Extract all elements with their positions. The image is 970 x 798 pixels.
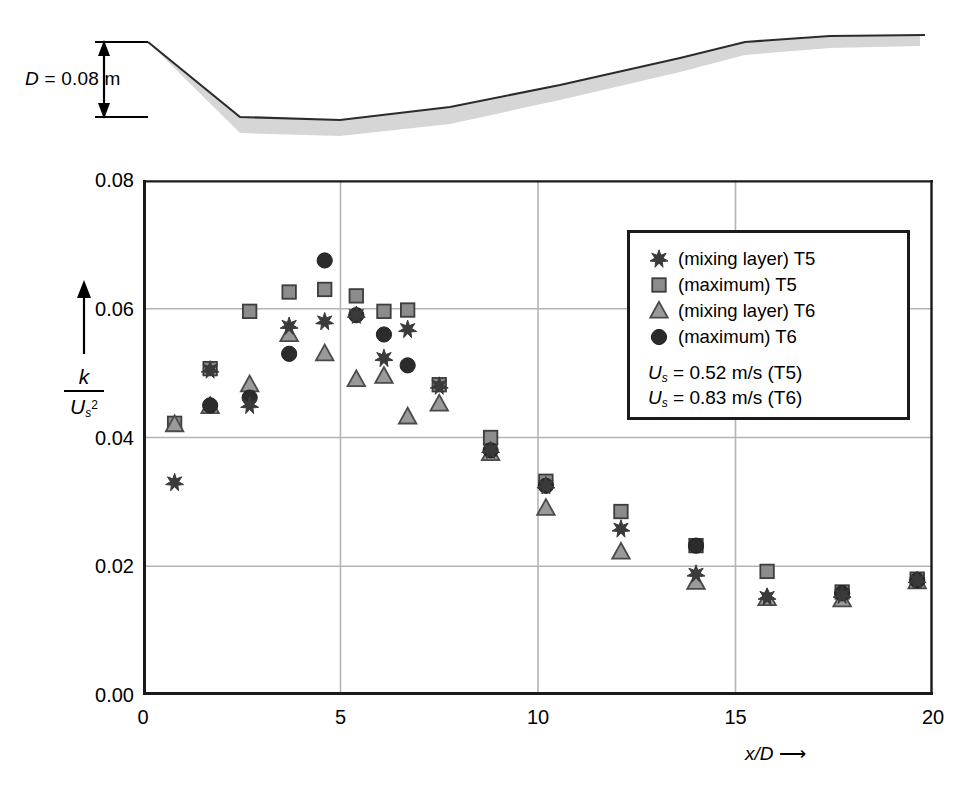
legend-circle-icon <box>651 329 666 344</box>
fraction-bar <box>64 390 104 392</box>
x-tick-label: 20 <box>922 706 944 729</box>
data-point-triangle <box>537 499 554 515</box>
data-point-circle <box>400 358 415 373</box>
data-point-triangle <box>241 376 258 392</box>
data-point-square <box>401 303 415 317</box>
legend-label: (maximum) T6 <box>678 326 797 348</box>
legend-velocity-note: Us = 0.83 m/s (T6) <box>648 387 907 412</box>
legend-notes: Us = 0.52 m/s (T5)Us = 0.83 m/s (T6) <box>646 362 907 412</box>
data-point-square <box>318 283 332 297</box>
x-axis-label: x/D ⟶ <box>745 742 806 765</box>
data-point-triangle <box>612 543 629 559</box>
data-point-square <box>350 289 364 303</box>
x-tick-label: 10 <box>527 706 549 729</box>
legend-marker-circle-icon <box>646 325 672 349</box>
data-point-triangle <box>431 395 448 411</box>
depth-dimension-label: D = 0.08 m <box>25 68 120 90</box>
y-tick-label: 0.02 <box>48 555 134 578</box>
bed-profile-svg <box>0 0 970 160</box>
legend-label: (mixing layer) T6 <box>678 300 815 322</box>
x-axis-arrow-icon: ⟶ <box>779 743 806 764</box>
bed-sediment-fill <box>148 35 920 136</box>
data-point-star <box>399 320 417 337</box>
figure-container: D = 0.08 m k Us2 x/D ⟶ <box>0 0 970 798</box>
data-point-circle <box>317 253 332 268</box>
data-point-circle <box>688 538 703 553</box>
data-point-triangle <box>348 370 365 386</box>
y-axis-denominator: Us2 <box>64 394 104 420</box>
legend-velocity-note: Us = 0.52 m/s (T5) <box>648 362 907 387</box>
data-point-square <box>377 305 391 319</box>
data-point-triangle <box>399 408 416 424</box>
y-axis-numerator: k <box>64 366 104 389</box>
legend-entry: (maximum) T5 <box>646 272 907 298</box>
data-point-circle <box>282 346 297 361</box>
legend-box: (mixing layer) T5(maximum) T5(mixing lay… <box>627 230 910 420</box>
data-point-square <box>614 505 628 519</box>
legend-star-icon <box>650 250 668 267</box>
y-tick-label: 0.00 <box>48 684 134 707</box>
y-tick-label: 0.04 <box>48 426 134 449</box>
legend-label: (maximum) T5 <box>678 274 797 296</box>
legend-entries: (mixing layer) T5(maximum) T5(mixing lay… <box>646 246 907 350</box>
data-point-star <box>316 312 334 329</box>
y-tick-label: 0.08 <box>48 169 134 192</box>
data-point-star <box>612 520 630 537</box>
y-axis-fraction: k Us2 <box>64 366 104 419</box>
data-point-triangle <box>316 345 333 361</box>
y-tick-label: 0.06 <box>48 297 134 320</box>
legend-entry: (maximum) T6 <box>646 324 907 350</box>
legend-square-icon <box>652 278 666 292</box>
data-point-circle <box>376 327 391 342</box>
data-point-circle <box>203 398 218 413</box>
data-point-square <box>760 565 774 579</box>
legend-entry: (mixing layer) T6 <box>646 298 907 324</box>
legend-label: (mixing layer) T5 <box>678 248 815 270</box>
x-tick-label: 5 <box>335 706 346 729</box>
x-tick-label: 0 <box>137 706 148 729</box>
data-point-square <box>243 305 257 319</box>
data-point-triangle <box>375 367 392 383</box>
data-point-star <box>375 349 393 366</box>
data-point-star <box>166 473 184 490</box>
legend-triangle-icon <box>650 302 667 318</box>
x-tick-label: 15 <box>724 706 746 729</box>
legend-marker-star-icon <box>646 247 672 271</box>
data-point-square <box>282 285 296 299</box>
legend-marker-square-icon <box>646 273 672 297</box>
legend-entry: (mixing layer) T5 <box>646 246 907 272</box>
legend-spacer <box>646 350 907 362</box>
bed-profile-panel: D = 0.08 m <box>0 0 970 160</box>
legend-marker-triangle-icon <box>646 299 672 323</box>
